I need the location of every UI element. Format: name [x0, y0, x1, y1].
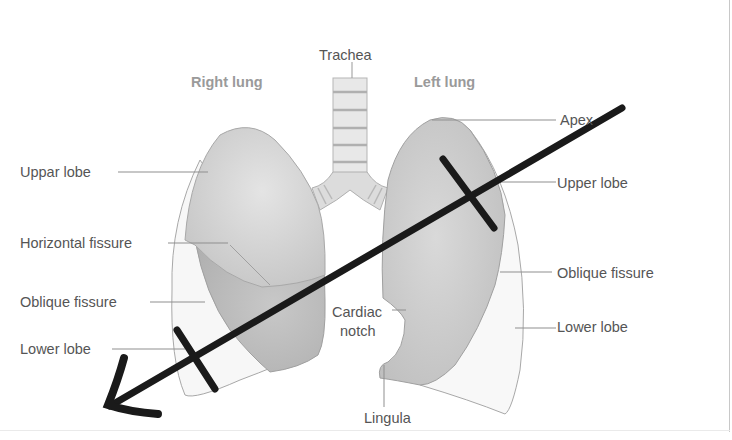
- lung-illustration: [0, 0, 732, 440]
- label-horizontal-fissure: Horizontal fissure: [20, 236, 132, 251]
- label-right-lower-lobe: Lower lobe: [20, 342, 91, 357]
- label-apex: Apex: [560, 113, 593, 128]
- label-cardiac-notch-1: Cardiac: [332, 305, 382, 320]
- trachea: [312, 62, 388, 210]
- lung-diagram: Trachea Right lung Left lung Uppar lobe …: [0, 0, 732, 440]
- label-left-lower-lobe: Lower lobe: [557, 320, 628, 335]
- label-right-upper-lobe: Uppar lobe: [20, 165, 91, 180]
- label-left-upper-lobe: Upper lobe: [557, 176, 628, 191]
- label-right-lung: Right lung: [191, 75, 263, 90]
- label-trachea: Trachea: [319, 48, 372, 63]
- label-left-oblique-fissure: Oblique fissure: [557, 266, 654, 281]
- label-left-lung: Left lung: [414, 75, 475, 90]
- frame-border-right: [729, 0, 730, 432]
- frame-border-bottom: [0, 430, 730, 431]
- left-lung: [379, 118, 523, 414]
- label-right-oblique-fissure: Oblique fissure: [20, 295, 117, 310]
- label-lingula: Lingula: [364, 411, 411, 426]
- label-cardiac-notch-2: notch: [340, 324, 375, 339]
